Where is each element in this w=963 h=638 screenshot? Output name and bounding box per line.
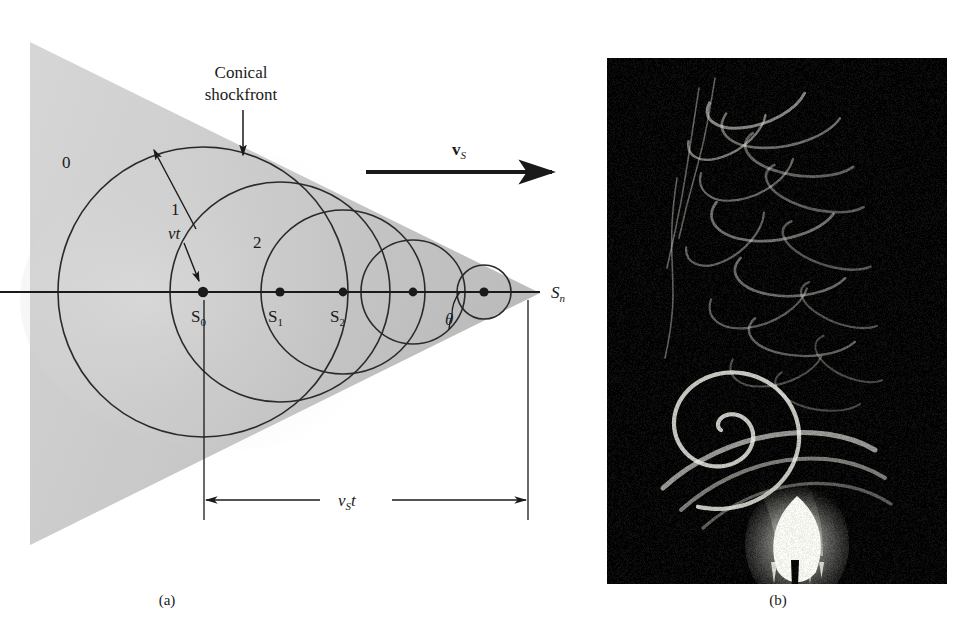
mach-cone-diagram: 0 1 2 S0 S1 S2 Sn θ Conical s xyxy=(0,0,600,590)
velocity-vector-label: vS xyxy=(452,140,467,161)
panel-a-caption: (a) xyxy=(137,592,197,609)
wavefront-label-2: 2 xyxy=(253,233,262,252)
velocity-vector-annotation: vS xyxy=(366,140,552,172)
figure-container: 0 1 2 S0 S1 S2 Sn θ Conical s xyxy=(0,0,963,638)
source-point-s2 xyxy=(339,288,348,297)
source-label-sn: Sn xyxy=(551,283,566,304)
wavefront-label-0: 0 xyxy=(62,153,71,172)
mach-angle-label: θ xyxy=(445,310,453,329)
source-point-s1 xyxy=(275,287,284,296)
schlieren-photograph xyxy=(607,58,947,584)
conical-shockfront-label-line2: shockfront xyxy=(205,85,278,104)
source-point-s0 xyxy=(198,287,208,297)
panel-b-caption: (b) xyxy=(748,592,808,609)
wavefront-radius-label: vt xyxy=(168,224,182,243)
source-point-sn xyxy=(479,287,488,296)
conical-shockfront-label-line1: Conical xyxy=(215,63,268,82)
distance-dimension-label: vSt xyxy=(338,491,357,512)
source-point-s3 xyxy=(409,288,418,297)
wavefront-label-1: 1 xyxy=(171,200,180,219)
schlieren-photo-canvas xyxy=(607,58,947,584)
